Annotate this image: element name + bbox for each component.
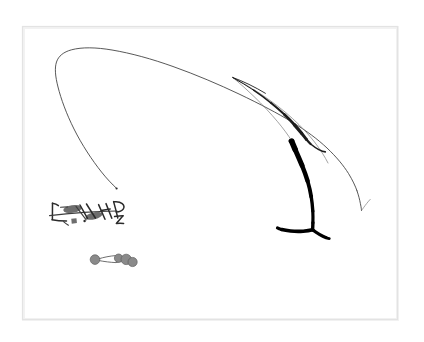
dot-1 (90, 255, 100, 265)
dot-4 (128, 257, 137, 266)
artwork-svg (0, 0, 424, 342)
artwork-canvas (0, 0, 424, 342)
paper-background (0, 0, 424, 342)
